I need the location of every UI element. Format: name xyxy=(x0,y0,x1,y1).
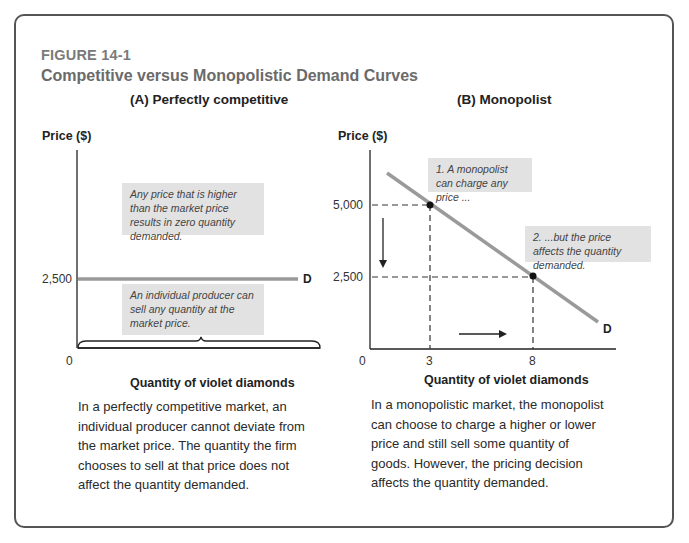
panel-b-note-price-affects-quantity: 2. ...but the price affects the quantity… xyxy=(525,226,651,262)
panel-b-origin: 0 xyxy=(359,354,366,368)
panel-b-x-tick-8: 8 xyxy=(529,354,536,368)
panel-b-caption: In a monopolistic market, the monopolist… xyxy=(371,395,606,493)
panel-b-y-tick-2500: 2,500 xyxy=(333,270,363,284)
panel-b-y-tick-5000: 5,000 xyxy=(333,198,363,212)
panel-b-x-axis-label: Quantity of violet diamonds xyxy=(424,373,589,387)
panel-b-x-tick-3: 3 xyxy=(426,354,433,368)
panel-b-note-charge-any-price: 1. A monopolist can charge any price ... xyxy=(428,158,532,192)
panel-b-demand-label: D xyxy=(603,322,612,336)
